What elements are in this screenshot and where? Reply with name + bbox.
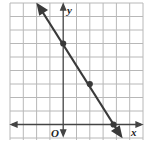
grid (10, 3, 143, 140)
point-4-0 (112, 123, 116, 127)
origin-label: O (51, 127, 59, 139)
coordinate-plane: y x O (0, 0, 145, 151)
x-axis-label: x (130, 126, 137, 138)
point-2-3 (88, 82, 92, 86)
y-axis-label: y (65, 4, 72, 16)
point-0-6 (61, 42, 65, 46)
